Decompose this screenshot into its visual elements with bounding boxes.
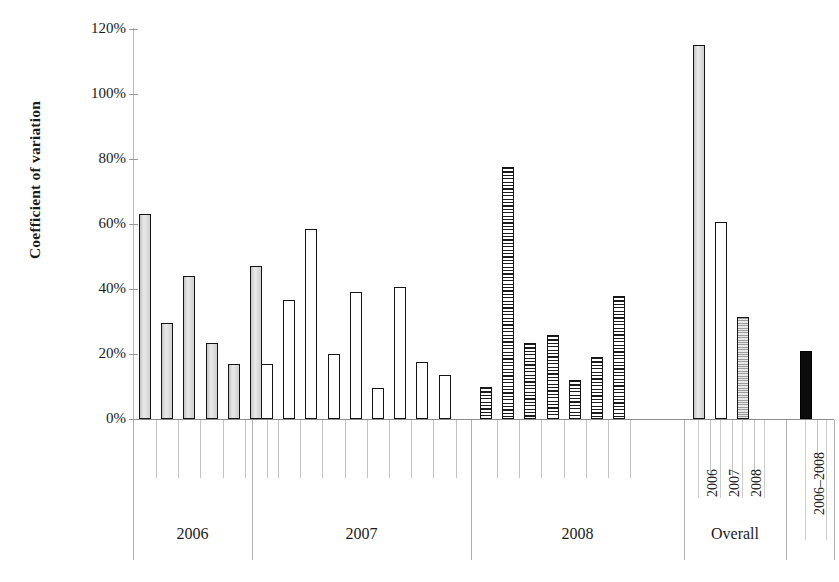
y-axis-title: Coefficient of variation	[26, 50, 50, 310]
y-axis-tick-label: 20%	[64, 346, 126, 361]
x-axis-rotated-label: 2006–2008	[812, 452, 827, 515]
bar	[305, 229, 317, 419]
bar	[715, 222, 727, 419]
x-axis-tick	[322, 420, 323, 478]
x-axis-group-label: 2008	[471, 525, 684, 543]
y-axis-tick-label: 100%	[64, 86, 126, 101]
bar	[569, 380, 581, 419]
x-axis-group-label: 2007	[252, 525, 471, 543]
bar	[206, 343, 218, 419]
x-axis-label-rule	[805, 420, 806, 540]
y-axis-tick-label: 40%	[64, 281, 126, 296]
x-axis-tick	[586, 420, 587, 478]
bar	[416, 362, 428, 419]
bar	[502, 167, 514, 419]
bar	[183, 276, 195, 419]
x-axis-tick	[367, 420, 368, 478]
x-axis-tick	[278, 420, 279, 478]
bar	[394, 287, 406, 419]
bar	[261, 364, 273, 419]
x-axis-rotated-label: 2008	[749, 469, 764, 497]
bar	[547, 335, 559, 420]
x-axis-tick	[389, 420, 390, 478]
bar	[737, 317, 749, 419]
x-axis-tick	[345, 420, 346, 478]
x-axis-tick	[541, 420, 542, 478]
y-axis-tick-label: 120%	[64, 21, 126, 36]
x-axis-tick	[156, 420, 157, 478]
x-axis-label-rule	[826, 420, 827, 540]
x-axis-line	[133, 419, 834, 420]
x-axis-group-separator	[834, 420, 835, 560]
x-axis-tick	[223, 420, 224, 478]
x-axis-tick	[519, 420, 520, 478]
y-axis-tick-label: 60%	[64, 216, 126, 231]
bar	[372, 388, 384, 419]
y-axis-tick-label: 80%	[64, 151, 126, 166]
bar	[693, 45, 705, 419]
x-axis-tick	[245, 420, 246, 478]
bar	[524, 343, 536, 419]
plot-area	[134, 29, 834, 419]
x-axis-tick	[608, 420, 609, 478]
x-axis-label-rule	[742, 420, 743, 498]
x-axis-tick	[267, 420, 268, 478]
x-axis-tick	[433, 420, 434, 478]
bar	[328, 354, 340, 419]
bar	[591, 357, 603, 419]
y-axis-tick-label: 0%	[64, 411, 126, 426]
bar	[439, 375, 451, 419]
x-axis-tick	[630, 420, 631, 478]
x-axis-group-separator	[786, 420, 787, 560]
x-axis-tick	[178, 420, 179, 478]
bar	[613, 296, 625, 420]
x-axis-tick	[411, 420, 412, 478]
x-axis-group-label: 2006	[133, 525, 252, 543]
bar	[228, 364, 240, 419]
bar	[480, 387, 492, 420]
x-axis-tick	[497, 420, 498, 478]
x-axis-label-rule	[720, 420, 721, 498]
bar	[350, 292, 362, 419]
bar	[161, 323, 173, 419]
x-axis-rotated-label: 2006	[705, 469, 720, 497]
x-axis-label-rule	[764, 420, 765, 498]
bar	[283, 300, 295, 419]
x-axis-tick	[200, 420, 201, 478]
bar	[139, 214, 151, 419]
bar	[800, 351, 812, 419]
chart-container: Coefficient of variation 0%20%40%60%80%1…	[0, 0, 839, 582]
x-axis-tick	[456, 420, 457, 478]
x-axis-tick	[564, 420, 565, 478]
x-axis-tick	[300, 420, 301, 478]
x-axis-rotated-label: 2007	[727, 469, 742, 497]
x-axis-label-rule	[698, 420, 699, 498]
x-axis-group-label: Overall	[684, 525, 786, 543]
